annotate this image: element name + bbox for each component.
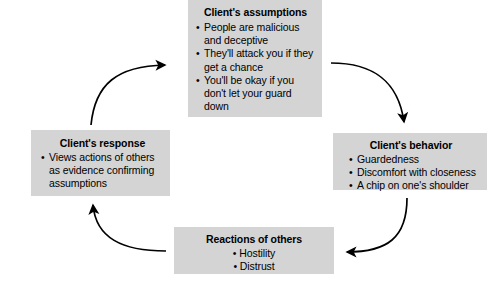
- list-item: A chip on one's shoulder: [349, 179, 481, 192]
- list-item: They'll attack you if they get a chance: [196, 47, 315, 73]
- cycle-diagram: Client's assumptions People are maliciou…: [0, 0, 502, 289]
- list-item: Distrust: [180, 260, 328, 273]
- list-item: Discomfort with closeness: [349, 166, 481, 179]
- arrow-reactions-to-response: [93, 205, 166, 251]
- list-item: People are malicious and deceptive: [196, 21, 315, 47]
- node-client-behavior: Client's behavior Guardedness Discomfort…: [333, 133, 487, 190]
- node-items-behavior: Guardedness Discomfort with closeness A …: [349, 153, 481, 193]
- list-item: You'll be okay if you don't let your gua…: [196, 74, 315, 114]
- node-client-response: Client's response Views actions of other…: [31, 130, 170, 196]
- node-items-assumptions: People are malicious and deceptive They'…: [196, 21, 315, 113]
- list-item: Views actions of others as evidence conf…: [41, 151, 164, 191]
- node-title-response: Client's response: [41, 137, 164, 150]
- list-item: Hostility: [180, 247, 328, 260]
- node-title-assumptions: Client's assumptions: [196, 6, 315, 19]
- node-reactions-of-others: Reactions of others Hostility Distrust: [174, 227, 334, 274]
- node-title-behavior: Client's behavior: [341, 139, 481, 152]
- node-items-reactions: Hostility Distrust: [180, 247, 328, 273]
- node-items-response: Views actions of others as evidence conf…: [41, 151, 164, 191]
- list-item: Guardedness: [349, 153, 481, 166]
- arrow-assumptions-to-behavior: [331, 63, 404, 122]
- node-title-reactions: Reactions of others: [180, 233, 328, 246]
- node-client-assumptions: Client's assumptions People are maliciou…: [188, 0, 322, 117]
- arrow-behavior-to-reactions: [347, 198, 407, 252]
- arrow-response-to-assumptions: [91, 65, 165, 125]
